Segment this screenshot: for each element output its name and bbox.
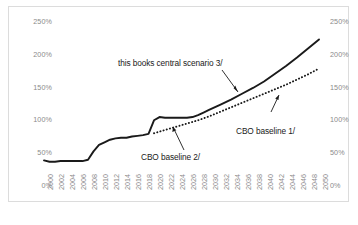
arrowhead-cbo-baseline-2: [172, 127, 176, 132]
arrowhead-cbo-baseline-1: [275, 95, 279, 100]
annotation-leader-lines: [0, 0, 358, 225]
annotation-central-scenario: this books central scenario 3/: [118, 58, 222, 68]
annotation-cbo-baseline-2: CBO baseline 2/: [141, 152, 200, 162]
annotation-cbo-baseline-1: CBO baseline 1/: [236, 126, 295, 136]
chart-container: 250% 200% 150% 100% 50% 0% 250% 200% 150…: [0, 0, 358, 225]
